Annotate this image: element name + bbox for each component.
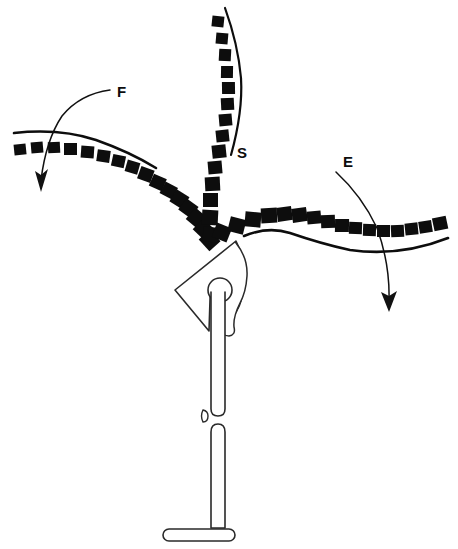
label-F: F	[117, 83, 126, 100]
branch-E-segments	[212, 206, 449, 242]
horizontal-base-foot	[163, 529, 235, 541]
branch-F	[14, 132, 221, 252]
label-S: S	[237, 144, 247, 161]
label-E: E	[343, 153, 353, 170]
upper-post	[211, 292, 225, 416]
diagram-canvas: F S E	[0, 0, 458, 549]
lower-post	[211, 424, 225, 528]
figure-root: F S E	[0, 0, 458, 549]
branch-S-segments	[202, 15, 236, 243]
mounting-stand	[163, 241, 247, 541]
branch-E	[212, 206, 449, 252]
extension-direction-arrow	[336, 172, 397, 312]
branch-S	[202, 8, 242, 243]
post-gap-tick	[202, 410, 209, 422]
